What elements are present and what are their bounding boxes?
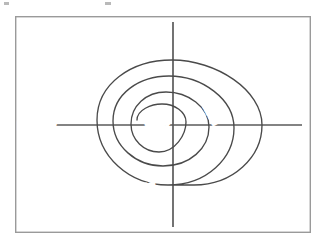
label-plan-next: Plan Next bbox=[105, 180, 155, 192]
label-start: Start bbox=[145, 119, 170, 131]
label-develop-construct: Develop/Construct bbox=[203, 186, 297, 198]
spiral-diagram-canvas: Commit Evaluate Risks Review Plan Next D… bbox=[0, 0, 324, 248]
label-review: Review bbox=[18, 120, 56, 132]
label-evaluate-risks: Evaluate Risks bbox=[231, 63, 306, 75]
spiral-model-diagram: Commit Evaluate Risks Review Plan Next D… bbox=[0, 0, 324, 248]
label-commit: Commit bbox=[65, 66, 105, 78]
